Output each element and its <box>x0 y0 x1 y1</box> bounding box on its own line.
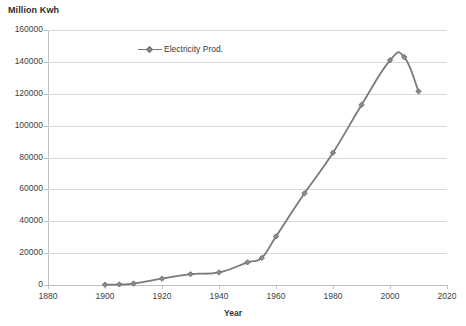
x-tick-mark <box>219 285 220 289</box>
x-tick-label: 1960 <box>267 291 286 301</box>
y-tick-label: 40000 <box>0 216 43 225</box>
data-point-marker <box>117 282 122 287</box>
x-tick-label: 1900 <box>96 291 115 301</box>
x-tick-mark <box>447 285 448 289</box>
y-tick-label: 120000 <box>0 89 43 98</box>
x-tick-mark <box>390 285 391 289</box>
legend-line-marker-icon <box>138 45 162 54</box>
data-point-marker <box>245 260 250 265</box>
x-tick-mark <box>333 285 334 289</box>
y-tick-label: 20000 <box>0 248 43 257</box>
plot-area <box>48 30 447 285</box>
series-line <box>105 52 419 285</box>
data-point-marker <box>416 89 421 94</box>
x-tick-label: 1920 <box>153 291 172 301</box>
x-tick-label: 1940 <box>210 291 229 301</box>
data-point-marker <box>188 271 193 276</box>
y-axis-title: Million Kwh <box>8 5 59 15</box>
chart-legend: Electricity Prod. <box>138 44 223 54</box>
y-tick-label: 0 <box>0 280 43 289</box>
x-tick-label: 2020 <box>438 291 457 301</box>
y-tick-label: 80000 <box>0 153 43 162</box>
x-tick-label: 1880 <box>39 291 58 301</box>
y-tick-label: 100000 <box>0 121 43 130</box>
x-tick-mark <box>162 285 163 289</box>
data-point-marker <box>159 276 164 281</box>
x-tick-label: 2000 <box>381 291 400 301</box>
data-point-marker <box>102 282 107 287</box>
chart-container: Million Kwh 0200004000060000800001000001… <box>0 0 466 326</box>
x-tick-mark <box>48 285 49 289</box>
y-tick-label: 160000 <box>0 25 43 34</box>
x-tick-mark <box>276 285 277 289</box>
y-tick-label: 60000 <box>0 184 43 193</box>
y-tick-label: 140000 <box>0 57 43 66</box>
x-tick-label: 1980 <box>324 291 343 301</box>
data-point-marker <box>216 270 221 275</box>
series-electricity-prod <box>48 30 447 285</box>
legend-entry-label: Electricity Prod. <box>164 44 223 54</box>
x-axis-title: Year <box>0 308 466 318</box>
